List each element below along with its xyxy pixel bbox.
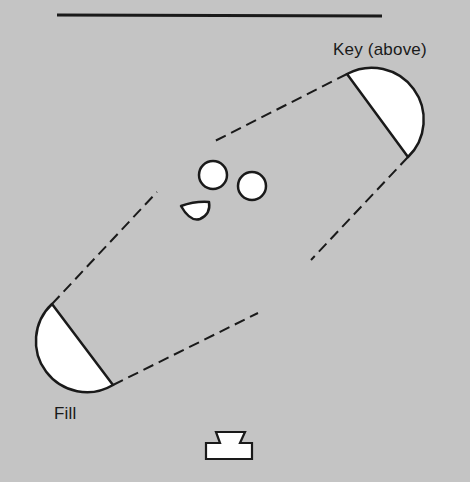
backdrop-line	[57, 15, 382, 16]
key-light-label: Key (above)	[333, 40, 427, 60]
subject-circle-2	[238, 172, 266, 200]
light-beams	[52, 74, 408, 385]
camera-icon	[206, 432, 252, 459]
key-light-icon	[347, 68, 424, 157]
key-beam-upper	[211, 74, 347, 143]
fill-beam-upper	[52, 192, 157, 304]
key-beam-lower	[311, 157, 408, 260]
fill-beam-lower	[113, 313, 258, 385]
fill-light-icon	[36, 304, 113, 392]
subject-half-circle	[181, 202, 209, 220]
fill-light-label: Fill	[54, 404, 77, 424]
subject-circle-1	[199, 161, 227, 189]
